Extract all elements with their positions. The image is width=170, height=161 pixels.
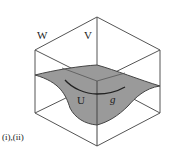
label-w: W bbox=[37, 29, 48, 41]
cube-surface-diagram: W V U g (i),(ii) bbox=[0, 0, 170, 161]
label-g: g bbox=[110, 93, 116, 105]
label-u: U bbox=[77, 94, 85, 106]
label-v: V bbox=[84, 29, 92, 41]
caption: (i),(ii) bbox=[2, 132, 24, 142]
